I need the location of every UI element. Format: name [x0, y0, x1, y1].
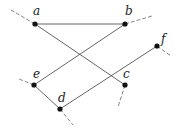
edge-e-d: [34, 85, 60, 109]
node-a: [32, 21, 37, 26]
edge-d-f: [60, 46, 157, 109]
node-f: [154, 43, 159, 48]
node-labels: abfecd: [33, 4, 168, 105]
node-label-e: e: [33, 67, 40, 81]
node-b: [122, 21, 127, 26]
node-label-f: f: [160, 32, 168, 46]
stub-edge-a: [11, 10, 35, 24]
edges: [34, 24, 157, 109]
node-label-c: c: [123, 67, 130, 81]
graph-diagram: abfecd: [0, 0, 187, 134]
node-e: [31, 82, 36, 87]
stub-edge-c: [118, 85, 125, 107]
node-c: [122, 82, 127, 87]
stub-edge-d: [60, 109, 73, 125]
node-label-d: d: [58, 91, 66, 105]
node-d: [57, 106, 62, 111]
node-label-a: a: [33, 4, 40, 18]
node-label-b: b: [125, 4, 133, 18]
